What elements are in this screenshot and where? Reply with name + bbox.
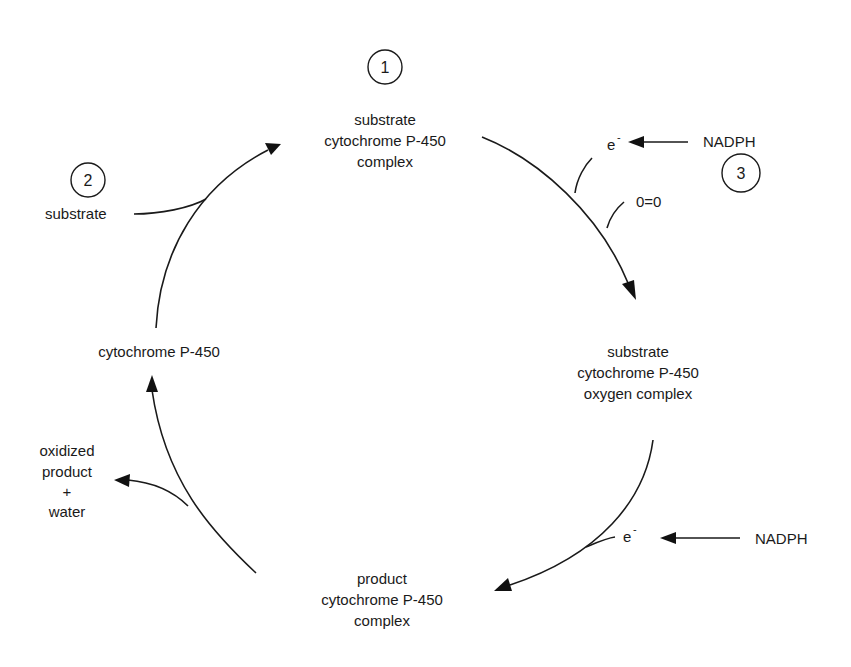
node-top-line-3: complex xyxy=(357,153,413,170)
oxygen-branch xyxy=(607,202,624,228)
node-top-line-1: substrate xyxy=(354,111,416,128)
electron-2-label: e - xyxy=(623,523,637,545)
arrow-nadph-1-to-electron xyxy=(628,136,688,148)
oxygen-label: 0=0 xyxy=(636,193,661,210)
electron-1-charge: - xyxy=(617,131,621,143)
input-nadph-1-label: NADPH xyxy=(703,133,756,150)
arrow-top-to-right xyxy=(482,137,636,300)
output-line-3: + xyxy=(63,483,72,500)
electron-2-charge: - xyxy=(633,523,637,535)
arrow-nadph-2-to-electron xyxy=(660,532,740,544)
arrow-right-to-bottom xyxy=(494,440,653,591)
node-left-line-1: cytochrome P-450 xyxy=(98,343,220,360)
arrow-left-to-top xyxy=(156,143,281,328)
input-nadph-2-label: NADPH xyxy=(755,530,808,547)
node-right-line-1: substrate xyxy=(607,343,669,360)
arrow-bottom-to-left xyxy=(146,375,256,573)
node-substrate-p450-oxygen-complex: substrate cytochrome P-450 oxygen comple… xyxy=(577,343,699,402)
node-top-line-2: cytochrome P-450 xyxy=(324,132,446,149)
p450-cycle-diagram: 1 substrate cytochrome P-450 complex sub… xyxy=(0,0,851,667)
node-bottom-line-3: complex xyxy=(354,612,410,629)
node-right-line-3: oxygen complex xyxy=(584,385,693,402)
node-bottom-line-1: product xyxy=(357,570,408,587)
step-2-badge: 2 xyxy=(71,163,105,197)
electron-2-e: e xyxy=(623,528,631,545)
step-3-number: 3 xyxy=(737,165,746,182)
electron-2-branch xyxy=(586,537,615,547)
output-line-4: water xyxy=(48,503,86,520)
electron-1-label: e - xyxy=(607,131,621,153)
output-line-2: product xyxy=(42,463,93,480)
step-1-number: 1 xyxy=(381,59,390,76)
node-right-line-2: cytochrome P-450 xyxy=(577,364,699,381)
output-oxidized-product-water: oxidized product + water xyxy=(39,442,94,520)
step-1-badge: 1 xyxy=(368,50,402,84)
arrow-to-oxidized-product xyxy=(114,474,188,506)
step-2-number: 2 xyxy=(84,172,93,189)
electron-1-e: e xyxy=(607,136,615,153)
output-line-1: oxidized xyxy=(39,442,94,459)
node-product-p450-complex: product cytochrome P-450 complex xyxy=(321,570,443,629)
node-cytochrome-p450: cytochrome P-450 xyxy=(98,343,220,360)
node-bottom-line-2: cytochrome P-450 xyxy=(321,591,443,608)
electron-1-branch xyxy=(575,158,592,193)
node-substrate-p450-complex: substrate cytochrome P-450 complex xyxy=(324,111,446,170)
step-3-badge: 3 xyxy=(722,154,760,192)
input-substrate-label: substrate xyxy=(45,205,107,222)
